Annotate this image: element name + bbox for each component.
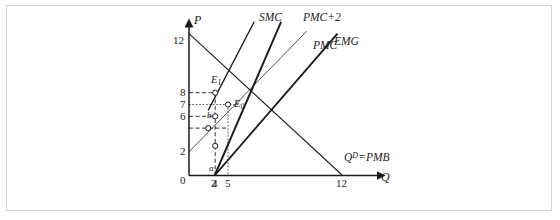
point-c bbox=[206, 126, 211, 131]
y-tick-6: 6 bbox=[180, 111, 186, 122]
curve-label-smc: SMC bbox=[259, 12, 282, 24]
area-label-a: a bbox=[209, 164, 214, 173]
economics-externality-diagram bbox=[0, 0, 560, 220]
curve-label-demand: QD=PMB bbox=[344, 152, 390, 164]
y-tick-8: 8 bbox=[180, 87, 186, 98]
point-label-E0: E0 bbox=[234, 99, 244, 110]
y-tick-12: 12 bbox=[173, 35, 184, 46]
point-label-E1: E1 bbox=[211, 75, 221, 86]
x-tick-12: 12 bbox=[336, 178, 347, 189]
y-tick-7: 7 bbox=[180, 99, 186, 110]
x-axis-label: Q bbox=[381, 171, 390, 183]
x-tick-4: 4 bbox=[212, 178, 218, 189]
point-b bbox=[213, 114, 218, 119]
point-E0 bbox=[225, 102, 230, 107]
y-axis-label: P bbox=[194, 14, 201, 26]
E0-subscript: 0 bbox=[240, 102, 244, 111]
area-label-b: b bbox=[207, 111, 212, 120]
x-tick-5: 5 bbox=[225, 178, 231, 189]
origin-label: 0 bbox=[180, 175, 186, 186]
curve-smc bbox=[208, 22, 254, 111]
curve-label-emg: EMG bbox=[334, 36, 359, 48]
demand-label-rest: =PMB bbox=[358, 151, 389, 163]
y-tick-2: 2 bbox=[180, 146, 186, 157]
point-E1 bbox=[213, 90, 218, 95]
curve-label-pmc-plus-2: PMC+2 bbox=[303, 12, 341, 24]
curve-pmc-plus-2 bbox=[215, 22, 282, 176]
figure-container: P Q 12 8 7 6 2 0 2 4 5 12 SMC PMC+2 PMC … bbox=[0, 0, 560, 220]
point-d bbox=[213, 143, 218, 148]
E1-subscript: 1 bbox=[217, 78, 221, 87]
